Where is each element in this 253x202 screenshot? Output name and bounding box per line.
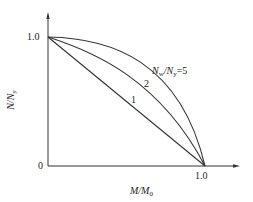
x-axis-label: M/M0: [130, 186, 153, 198]
curve-1-label: 1: [131, 95, 136, 105]
x-axis-arrow-icon: [233, 164, 240, 167]
curve-1: [48, 37, 205, 166]
y-axis-arrow-icon: [46, 12, 49, 19]
curve-2-label: 2: [144, 79, 149, 89]
y-axis-label: N/Ny: [6, 90, 18, 110]
y-tick-1: 1.0: [27, 32, 40, 42]
y-tick-0: 0: [38, 161, 43, 171]
x-tick-1: 1.0: [195, 171, 208, 181]
curve-nw-ny-label: Nw/Ny=5: [152, 66, 187, 78]
